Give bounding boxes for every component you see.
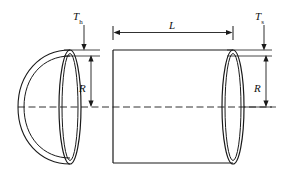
label-radius-shell: R — [254, 83, 261, 94]
pressure-vessel-figure: Th Ts L R R — [0, 0, 286, 180]
label-head-thickness: Th — [73, 11, 83, 25]
r-head-arrowhead-bottom — [88, 101, 93, 108]
r-shell-arrowhead-bottom — [263, 101, 268, 108]
label-shell-thickness: Ts — [255, 11, 264, 25]
label-radius-head: R — [79, 83, 86, 94]
th-leader-arrowhead — [81, 44, 86, 51]
ts-leader-arrowhead — [261, 44, 266, 51]
l-dim-arrowhead-right — [226, 30, 233, 35]
vessel-drawing — [0, 0, 286, 180]
l-dim-arrowhead-left — [114, 30, 121, 35]
label-length: L — [169, 20, 175, 31]
